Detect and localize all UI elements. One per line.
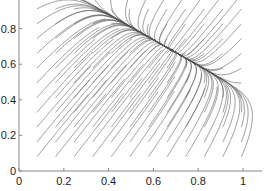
- x-tick-label: 1: [240, 175, 246, 187]
- y-tick-label: 0: [10, 165, 16, 177]
- y-tick-label: 0.8: [1, 23, 16, 35]
- y-tick-label: 0.6: [1, 58, 16, 70]
- x-tick-label: 0.2: [56, 175, 71, 187]
- streamline: [37, 0, 121, 21]
- streamline: [164, 9, 186, 50]
- x-tick-label: 0.8: [191, 175, 206, 187]
- streamline: [37, 39, 95, 98]
- y-tick-label: 0.4: [1, 94, 16, 106]
- streamline: [176, 53, 214, 113]
- streamline: [37, 66, 91, 127]
- streamline-plot: 00.20.40.60.8100.20.40.60.8: [0, 0, 269, 191]
- streamline: [37, 52, 93, 112]
- x-tick-label: 0.4: [101, 175, 116, 187]
- streamline: [37, 11, 117, 39]
- streamline: [149, 48, 172, 68]
- x-tick-label: 0: [16, 175, 22, 187]
- streamline: [235, 87, 252, 156]
- x-tick-label: 0.6: [146, 175, 161, 187]
- streamlines: [37, 0, 253, 157]
- streamline: [56, 29, 119, 83]
- streamline: [186, 72, 212, 142]
- streamline: [171, 50, 241, 70]
- streamline: [130, 91, 175, 157]
- y-tick-label: 0.2: [1, 129, 16, 141]
